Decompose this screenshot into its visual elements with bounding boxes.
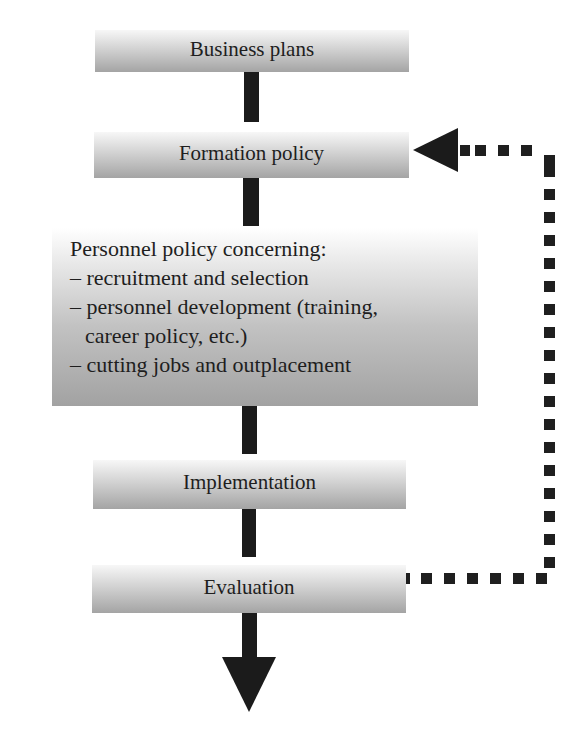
output-arrow-icon [222, 613, 276, 712]
feedback-arrowhead-icon [413, 128, 458, 172]
arrows-overlay [0, 0, 585, 739]
feedback-loop-dotted-line [406, 145, 555, 584]
